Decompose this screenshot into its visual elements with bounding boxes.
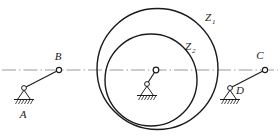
support-center — [137, 82, 157, 100]
label-gear-outer: Z 1 — [205, 11, 216, 26]
joint-b — [56, 67, 61, 72]
diagram-canvas: A B C D Z 1 Z 2 — [0, 0, 280, 140]
mechanism-diagram: A B C D Z 1 Z 2 — [0, 0, 280, 140]
label-gear-inner-subscript: 2 — [192, 47, 196, 55]
label-point-a: A — [19, 108, 27, 120]
support-a-triangle — [18, 90, 31, 99]
support-center-triangle — [141, 86, 154, 95]
label-point-c: C — [256, 49, 264, 61]
label-gear-outer-letter: Z — [205, 11, 212, 23]
joint-c — [262, 67, 267, 72]
joint-center — [153, 67, 159, 73]
support-center-hatching — [139, 96, 157, 101]
link-ab — [24, 70, 59, 88]
label-point-b: B — [55, 50, 62, 62]
label-gear-inner: Z 2 — [185, 40, 196, 55]
label-point-d: D — [235, 84, 244, 96]
support-a-hatching — [16, 100, 34, 105]
support-d-hatching — [222, 100, 240, 105]
support-a — [14, 86, 34, 104]
label-gear-inner-letter: Z — [185, 40, 192, 52]
support-d-triangle — [224, 90, 237, 99]
gear-inner-circle — [105, 34, 197, 126]
label-gear-outer-subscript: 1 — [212, 18, 216, 26]
